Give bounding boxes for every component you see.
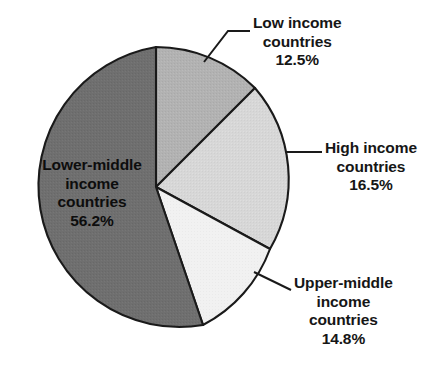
slice-label-high-income: High income countries 16.5% (325, 139, 417, 195)
slice-label-low-income-line2: countries (253, 33, 342, 52)
slice-label-low-income-line1: Low income (253, 14, 342, 33)
slice-label-lower-middle-income-line2: income (26, 175, 158, 194)
slice-value-high-income: 16.5% (325, 176, 417, 195)
slice-value-upper-middle-income: 14.8% (294, 330, 393, 349)
slice-value-low-income: 12.5% (253, 51, 342, 70)
slice-label-high-income-line2: countries (325, 158, 417, 177)
slice-label-lower-middle-income-line1: Lower-middle (26, 156, 158, 175)
leader-line-upper-middle-income (254, 272, 291, 290)
slice-label-low-income: Low income countries 12.5% (253, 14, 342, 70)
slice-label-upper-middle-income-line3: countries (294, 311, 393, 330)
slice-label-lower-middle-income-line3: countries (26, 193, 158, 212)
slice-label-lower-middle-income: Lower-middle income countries 56.2% (26, 156, 158, 230)
slice-label-upper-middle-income-line2: income (294, 293, 393, 312)
slice-value-lower-middle-income: 56.2% (26, 212, 158, 231)
pie-chart: Low income countries 12.5% High income c… (0, 0, 438, 377)
slice-label-upper-middle-income: Upper-middle income countries 14.8% (294, 274, 393, 348)
slice-label-upper-middle-income-line1: Upper-middle (294, 274, 393, 293)
slice-label-high-income-line1: High income (325, 139, 417, 158)
